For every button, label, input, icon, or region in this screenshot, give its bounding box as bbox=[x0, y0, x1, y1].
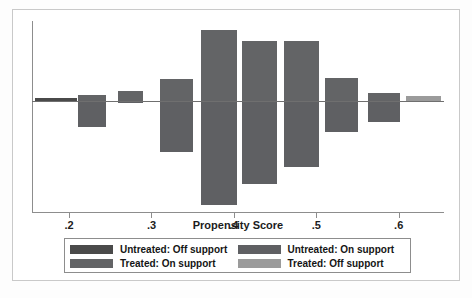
x-axis-title: Propensity Score bbox=[32, 219, 444, 231]
x-axis-line bbox=[32, 212, 444, 213]
bin-5-treated-on bbox=[201, 30, 237, 101]
legend-label-untreated-on-support: Untreated: On support bbox=[288, 244, 395, 255]
bin-9-treated-on bbox=[368, 93, 400, 101]
bin-9-untreated-on bbox=[368, 102, 400, 122]
bin-7-untreated-on bbox=[284, 102, 319, 167]
bin-3-treated-on bbox=[118, 91, 143, 101]
bin-6-treated-on bbox=[242, 41, 277, 101]
legend-label-treated-on-support: Treated: On support bbox=[120, 258, 216, 269]
bin-3-untreated-on bbox=[118, 102, 143, 103]
bin-7-treated-on bbox=[284, 41, 319, 101]
x-tick-mark-6 bbox=[399, 213, 400, 218]
bin-4-untreated-on bbox=[160, 102, 193, 152]
legend-swatch-treated-on-support bbox=[70, 259, 113, 268]
legend-label-untreated-off-support: Untreated: Off support bbox=[120, 244, 227, 255]
legend-row: Untreated: Off support Untreated: On sup… bbox=[70, 242, 405, 256]
legend-swatch-untreated-on-support bbox=[238, 245, 281, 254]
legend-item-treated-on-support[interactable]: Treated: On support bbox=[70, 256, 238, 270]
bin-8-untreated-on bbox=[325, 102, 358, 132]
legend-item-untreated-off-support[interactable]: Untreated: Off support bbox=[70, 242, 238, 256]
bin-4-treated-on bbox=[160, 79, 193, 101]
legend-swatch-untreated-off-support bbox=[70, 245, 113, 254]
zero-baseline bbox=[32, 101, 444, 102]
bin-2-untreated-on bbox=[78, 102, 106, 127]
legend-item-untreated-on-support[interactable]: Untreated: On support bbox=[238, 242, 406, 256]
legend-item-treated-off-support[interactable]: Treated: Off support bbox=[238, 256, 406, 270]
legend-swatch-treated-off-support bbox=[238, 259, 281, 268]
bin-8-treated-on bbox=[325, 78, 358, 101]
bin-5-untreated-on bbox=[201, 102, 237, 205]
x-tick-mark-3 bbox=[151, 213, 152, 218]
legend-row: Treated: On support Treated: Off support bbox=[70, 256, 405, 270]
legend-label-treated-off-support: Treated: Off support bbox=[288, 258, 384, 269]
x-tick-mark-2 bbox=[69, 213, 70, 218]
bin-6-untreated-on bbox=[242, 102, 277, 184]
legend: Untreated: Off support Untreated: On sup… bbox=[64, 238, 411, 273]
plot-area: .2.3.4.5.6 bbox=[32, 21, 444, 213]
y-axis-line bbox=[32, 21, 33, 213]
chart-figure: .2.3.4.5.6 Propensity Score Untreated: O… bbox=[0, 0, 472, 298]
x-tick-mark-5 bbox=[316, 213, 317, 218]
x-tick-mark-4 bbox=[234, 213, 235, 218]
